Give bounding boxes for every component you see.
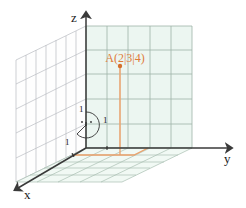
tick-label-z-1: 1 bbox=[79, 104, 84, 114]
z-axis-label: z bbox=[71, 10, 77, 25]
x-axis-label: x bbox=[24, 187, 31, 202]
y-axis-label: y bbox=[224, 151, 231, 166]
point-a-label: A(2|3|4) bbox=[105, 51, 144, 65]
tick-label-x-1: 1 bbox=[65, 137, 70, 147]
point-a-marker bbox=[118, 64, 122, 68]
coordinate-system-diagram: z y x 1 1 1 A(2|3|4) bbox=[0, 0, 246, 208]
yz-plane bbox=[86, 26, 192, 148]
origin-dot-right bbox=[90, 121, 92, 123]
figure-canvas: z y x 1 1 1 A(2|3|4) bbox=[0, 0, 246, 208]
origin-dot-left bbox=[81, 121, 83, 123]
tick-label-y-1: 1 bbox=[103, 115, 108, 125]
